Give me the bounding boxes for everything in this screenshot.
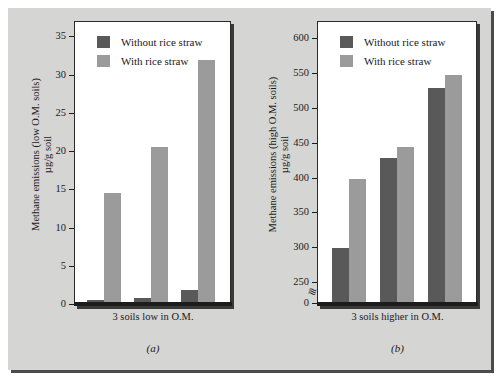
- y-axis-tick-label: 600: [293, 33, 309, 44]
- y-axis-tick-label: 25: [56, 108, 67, 119]
- y-axis-tick-label: 20: [56, 146, 67, 157]
- y-axis-tick-label: 550: [293, 68, 309, 79]
- legend-item-with-a: With rice straw: [97, 55, 202, 67]
- y-axis-tick-label: 15: [56, 184, 67, 195]
- legend-label-without: Without rice straw: [364, 37, 445, 48]
- legend-item-without-b: Without rice straw: [340, 36, 445, 48]
- legend-item-with-b: With rice straw: [340, 55, 445, 67]
- chart-panel-b: Methane emissions (high O.M. soils) µg/g…: [253, 8, 491, 370]
- x-axis-baseline-a: [74, 302, 232, 306]
- legend-swatch-without-icon: [97, 36, 110, 48]
- bar-with-rice-straw: [151, 147, 168, 305]
- legend-swatch-without-icon: [340, 36, 353, 48]
- bar-without-rice-straw: [332, 248, 349, 305]
- y-axis-tick-label: 250: [293, 277, 309, 288]
- plot-frame-a: Without rice straw With rice straw: [74, 21, 231, 306]
- plot-frame-b: Without rice straw With rice straw: [317, 21, 477, 306]
- bar-with-rice-straw: [397, 147, 414, 305]
- x-axis-label-b: 3 soils higher in O.M.: [317, 311, 478, 322]
- bar-with-rice-straw: [104, 193, 121, 305]
- y-axis-tick-label: 300: [293, 242, 309, 253]
- legend-item-without-a: Without rice straw: [97, 36, 202, 48]
- x-axis-label-a: 3 soils low in O.M.: [74, 311, 232, 322]
- panel-caption-a: (a): [74, 342, 232, 354]
- y-axis-tick-label: 350: [293, 207, 309, 218]
- y-axis-tick-label: 10: [56, 223, 67, 234]
- y-axis-tick-label: 0: [61, 299, 66, 310]
- legend-swatch-with-icon: [97, 55, 110, 67]
- y-axis-title-b-line1: Methane emissions (high O.M. soils): [267, 77, 278, 233]
- y-axis-tick-label: 400: [293, 173, 309, 184]
- figure-canvas: Methane emissions (low O.M. soils) µg/g …: [8, 8, 491, 370]
- bar-with-rice-straw: [198, 60, 215, 305]
- y-axis-title-a-line1: Methane emissions (low O.M. soils): [30, 78, 41, 231]
- x-axis-baseline-b: [317, 302, 478, 306]
- legend-label-with: With rice straw: [364, 56, 431, 67]
- legend-a: Without rice straw With rice straw: [97, 36, 202, 74]
- y-axis-tick-label: 450: [293, 138, 309, 149]
- y-axis-title-a-line2: µg/g soil: [42, 136, 53, 173]
- panel-caption-b: (b): [317, 342, 478, 354]
- y-axis-tick-label: 35: [56, 31, 67, 42]
- bar-with-rice-straw: [445, 75, 462, 305]
- chart-panel-a: Methane emissions (low O.M. soils) µg/g …: [8, 8, 253, 370]
- y-axis-title-a: Methane emissions (low O.M. soils) µg/g …: [30, 13, 55, 296]
- legend-b: Without rice straw With rice straw: [340, 36, 445, 74]
- y-axis-tick-label: 5: [61, 261, 66, 272]
- y-axis-tick-label: 0: [304, 298, 309, 309]
- legend-label-with: With rice straw: [121, 56, 188, 67]
- y-axis-title-b: Methane emissions (high O.M. soils) µg/g…: [267, 13, 292, 296]
- legend-label-without: Without rice straw: [121, 37, 202, 48]
- bar-without-rice-straw: [428, 88, 445, 305]
- y-axis-tick-label: 30: [56, 70, 67, 81]
- bar-without-rice-straw: [380, 158, 397, 305]
- y-axis-title-b-line2: µg/g soil: [279, 136, 290, 173]
- legend-swatch-with-icon: [340, 55, 353, 67]
- bar-with-rice-straw: [349, 179, 366, 305]
- y-axis-tick-label: 500: [293, 103, 309, 114]
